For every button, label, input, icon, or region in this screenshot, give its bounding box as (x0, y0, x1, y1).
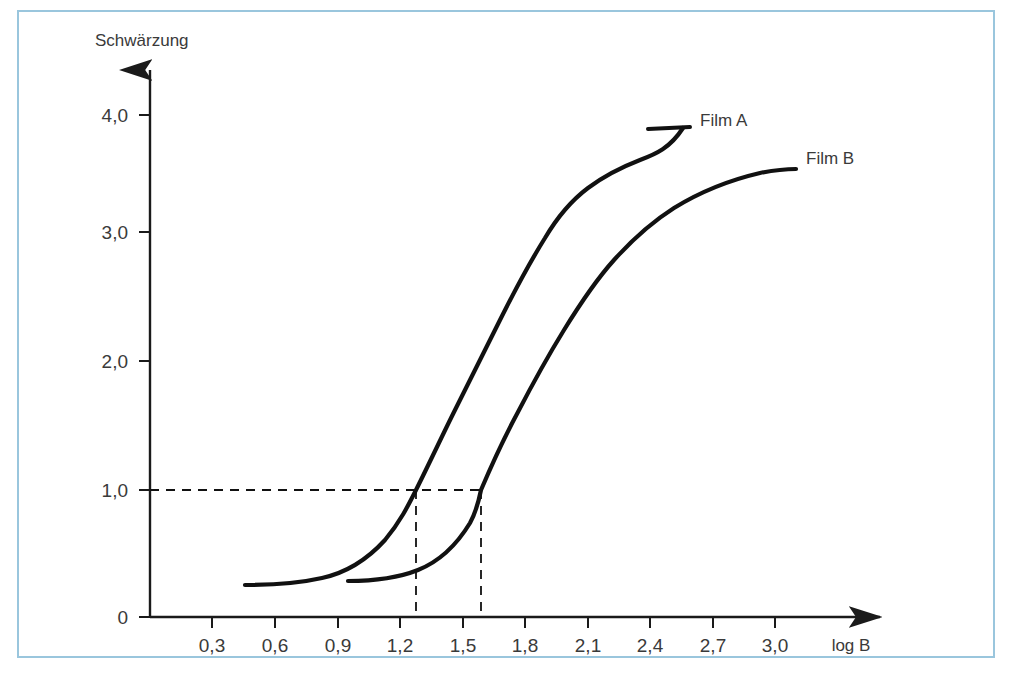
sensitometric-curve-chart: 4,0 3,0 2,0 1,0 0 0,3 0,6 0,9 1,2 1,5 1,… (0, 0, 1012, 682)
figure-root: 4,0 3,0 2,0 1,0 0 0,3 0,6 0,9 1,2 1,5 1,… (0, 0, 1012, 682)
x-tick-label-5: 1,8 (512, 635, 538, 656)
x-tick-label-1: 0,6 (262, 635, 288, 656)
x-tick-label-8: 2,7 (700, 635, 726, 656)
x-tick-label-0: 0,3 (199, 635, 225, 656)
curve-film-b (348, 169, 796, 581)
x-tick-label-7: 2,4 (637, 635, 664, 656)
threshold-annotations (150, 490, 481, 617)
x-axis-ticks (212, 617, 775, 628)
y-tick-label-2: 2,0 (102, 351, 128, 372)
y-axis-title: Schwärzung (95, 31, 189, 50)
curve-film-a (245, 128, 683, 585)
series-label-film-a: Film A (700, 111, 748, 130)
x-tick-label-9: 3,0 (762, 635, 788, 656)
y-tick-label-0: 0 (117, 607, 128, 628)
x-tick-label-6: 2,1 (575, 635, 601, 656)
y-tick-label-1: 1,0 (102, 480, 128, 501)
x-tick-label-4: 1,5 (450, 635, 476, 656)
y-tick-label-3: 3,0 (102, 222, 128, 243)
x-tick-label-3: 1,2 (387, 635, 413, 656)
curve-film-a-label-stub (648, 127, 690, 129)
y-axis-ticks (139, 115, 150, 617)
y-tick-label-4: 4,0 (102, 105, 128, 126)
x-tick-label-2: 0,9 (325, 635, 351, 656)
series-label-film-b: Film B (806, 149, 854, 168)
x-axis-title: log B (832, 636, 871, 655)
